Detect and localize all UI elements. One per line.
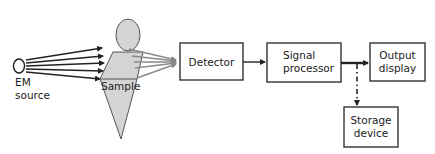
signal-processor-box: Signal processor bbox=[267, 43, 341, 82]
em-source-label-line2: source bbox=[15, 89, 50, 101]
diagram-canvas: EM source Sample Detector Signal process… bbox=[0, 0, 435, 154]
storage-device-box: Storage device bbox=[344, 107, 398, 147]
detector-label: Detector bbox=[189, 56, 235, 68]
storage-device-label-line1: Storage bbox=[350, 114, 391, 126]
signal-processor-label-line1: Signal bbox=[283, 49, 315, 61]
sample: Sample bbox=[100, 19, 143, 139]
output-display-box: Output display bbox=[370, 43, 425, 81]
detector-box: Detector bbox=[180, 43, 243, 80]
em-source-icon bbox=[14, 59, 25, 73]
output-display-label-line2: display bbox=[379, 62, 416, 74]
signal-processor-label-line2: processor bbox=[283, 62, 335, 74]
sample-label: Sample bbox=[101, 80, 140, 92]
output-display-label-line1: Output bbox=[379, 49, 415, 61]
incident-rays bbox=[26, 48, 104, 79]
em-source-label-line1: EM bbox=[15, 76, 31, 88]
storage-device-label-line2: device bbox=[354, 127, 389, 139]
